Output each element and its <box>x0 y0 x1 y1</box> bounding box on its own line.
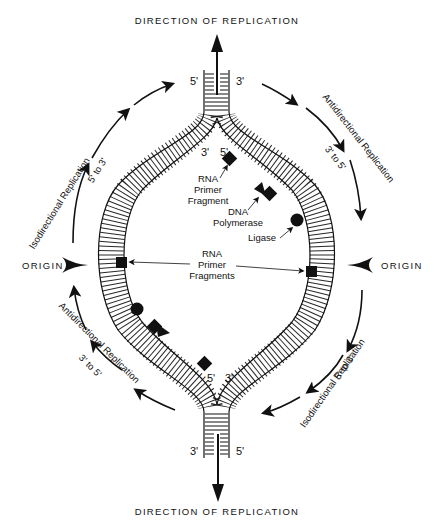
arc-label-upper-right: Antidirectional Replication 3' to 5' <box>321 91 397 184</box>
direction-top-label: DIRECTION OF REPLICATION <box>135 15 300 26</box>
svg-text:RNA: RNA <box>202 248 223 259</box>
replication-diagram: DIRECTION OF REPLICATION 5' 3' <box>0 0 435 522</box>
bottom-left-end-label: 3' <box>190 445 198 457</box>
origin-right-label: ORIGIN <box>381 260 423 271</box>
bottom-inner-right-label: 3' <box>225 372 233 384</box>
bottom-duplex <box>204 412 229 458</box>
arc-label-upper-left: Isodirectional Replication 5' to 3' <box>26 155 109 250</box>
svg-text:Fragment: Fragment <box>188 195 229 206</box>
svg-text:3' to 5': 3' to 5' <box>323 144 349 173</box>
svg-text:Antidirectional Replication: Antidirectional Replication <box>321 91 397 184</box>
svg-text:Isodirectional Replication: Isodirectional Replication <box>26 155 91 250</box>
rna-primer-square-icon <box>116 257 127 268</box>
bottom-right-end-label: 5' <box>236 445 244 457</box>
svg-text:RNA: RNA <box>198 173 219 184</box>
rna-primer-square-icon <box>306 266 317 277</box>
top-inner-left-label: 3' <box>201 146 209 158</box>
svg-text:Primer: Primer <box>198 259 226 270</box>
svg-text:Ligase: Ligase <box>248 232 276 243</box>
svg-text:DNA: DNA <box>228 206 249 217</box>
origin-left-marker-icon <box>62 257 88 273</box>
arc-label-lower-right: Isodirectional Replication 5' to 3' <box>297 337 367 430</box>
svg-text:Polymerase: Polymerase <box>213 217 263 228</box>
svg-text:Fragments: Fragments <box>189 270 235 281</box>
direction-bottom-label: DIRECTION OF REPLICATION <box>135 506 300 517</box>
svg-text:Primer: Primer <box>194 184 222 195</box>
top-right-end-label: 3' <box>236 75 244 87</box>
bottom-direction-arrow <box>212 434 224 502</box>
svg-text:Isodirectional Replication: Isodirectional Replication <box>297 337 367 430</box>
bottom-inner-left-label: 5' <box>207 372 215 384</box>
ligase-circle-icon <box>131 303 144 316</box>
ligase-circle-icon <box>291 214 304 227</box>
top-left-end-label: 5' <box>190 75 198 87</box>
origin-right-marker-icon <box>347 257 373 273</box>
svg-text:3' to 5': 3' to 5' <box>77 352 104 379</box>
origin-left-label: ORIGIN <box>22 260 64 271</box>
